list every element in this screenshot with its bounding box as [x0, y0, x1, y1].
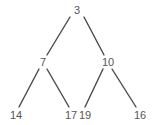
tree-edge [85, 69, 103, 107]
tree-node-right: 10 [102, 57, 114, 68]
tree-edge [47, 69, 69, 107]
tree-edge [84, 17, 104, 55]
tree-node-root: 3 [74, 5, 80, 16]
tree-node-leaf2: 17 [65, 110, 77, 121]
tree-edge [19, 69, 39, 107]
tree-edge [47, 17, 70, 55]
tree-edges-layer [0, 0, 153, 125]
tree-node-leaf3: 19 [79, 110, 91, 121]
tree-node-leaf1: 14 [10, 110, 22, 121]
tree-node-leaf4: 16 [134, 110, 146, 121]
binary-tree-diagram: 371014171916 [0, 0, 153, 125]
tree-node-left: 7 [40, 57, 46, 68]
tree-edge [112, 69, 136, 107]
